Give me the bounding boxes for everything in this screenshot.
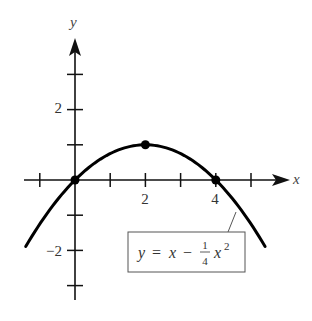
eq-frac-den: 4 bbox=[202, 255, 208, 267]
eq-lhs: y bbox=[136, 244, 146, 262]
x-axis-label: x bbox=[292, 171, 300, 187]
eq-minus: − bbox=[183, 244, 192, 261]
eq-exponent: 2 bbox=[224, 240, 230, 252]
marked-point bbox=[71, 176, 80, 185]
label-pointer-line bbox=[228, 212, 236, 232]
y-tick-label-2: 2 bbox=[55, 100, 63, 116]
x-tick-label-4: 4 bbox=[211, 191, 219, 207]
eq-frac-num: 1 bbox=[202, 239, 208, 251]
eq-x: x bbox=[168, 244, 176, 261]
eq-x2: x bbox=[213, 244, 221, 261]
marked-point bbox=[211, 176, 220, 185]
y-tick-label-neg2: −2 bbox=[46, 243, 62, 259]
marked-point bbox=[141, 140, 150, 149]
parabola-chart: x y 2 4 2 −2 y = x − 1 4 x 2 bbox=[0, 0, 312, 321]
eq-equals: = bbox=[152, 244, 161, 261]
y-axis-label: y bbox=[68, 14, 77, 30]
x-tick-label-2: 2 bbox=[141, 191, 149, 207]
